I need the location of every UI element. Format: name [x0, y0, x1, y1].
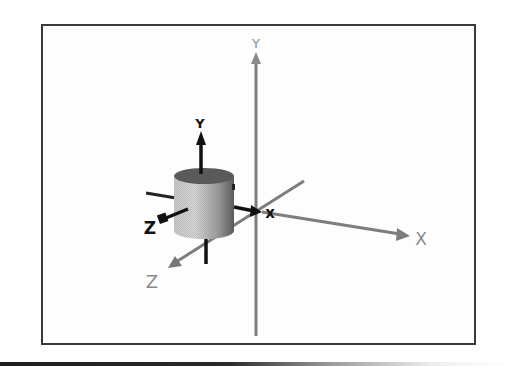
local-x-back-stub	[146, 193, 176, 198]
coordinate-diagram: Y Z X Y	[0, 0, 509, 367]
local-y-arrowhead-icon	[196, 131, 206, 145]
diagram-stage: Y Z X Y	[0, 0, 509, 367]
world-x-arrowhead-icon	[396, 228, 410, 241]
world-x-label: X	[415, 229, 427, 249]
world-y-axis: Y	[251, 36, 261, 336]
world-y-label: Y	[251, 36, 260, 51]
bottom-rule	[0, 362, 509, 366]
local-y-label: Y	[194, 116, 205, 131]
cylinder-top	[174, 168, 234, 184]
local-x-label: x	[265, 204, 275, 222]
local-y-axis: Y	[194, 116, 206, 174]
local-z-label: Z	[144, 218, 156, 238]
world-x-axis: X	[262, 212, 427, 249]
world-z-label: Z	[146, 271, 158, 292]
world-y-arrowhead-icon	[251, 52, 261, 64]
local-z-arrowhead-icon	[157, 213, 169, 225]
